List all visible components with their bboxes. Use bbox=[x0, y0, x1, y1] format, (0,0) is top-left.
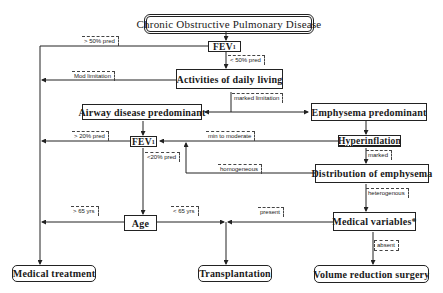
node-age: Age bbox=[124, 215, 157, 231]
node-medical-variables: Medical variables* bbox=[333, 212, 416, 231]
volume-reduction-label: Volume reduction surgery bbox=[314, 269, 430, 280]
fev1-top-label: FEV bbox=[213, 42, 233, 52]
edge-label-present: present bbox=[258, 207, 284, 217]
node-fev1-mid: FEV1 bbox=[130, 136, 157, 147]
node-emphysema-predominant: Emphysema predominant bbox=[311, 103, 427, 121]
edge-label-absent: absent bbox=[374, 240, 399, 251]
medical-variables-label: Medical variables* bbox=[332, 216, 416, 227]
hyperinflation-label: Hyperinflation bbox=[338, 136, 401, 146]
edge-label-gt50: > 50% pred bbox=[82, 36, 119, 46]
title-text: Chronic Obstructive Pulmonary Disease bbox=[137, 18, 322, 30]
node-hyperinflation: Hyperinflation bbox=[338, 135, 401, 147]
fev1-mid-subscript: 1 bbox=[152, 139, 155, 145]
edge-label-gt65: > 65 yrs bbox=[71, 206, 99, 216]
node-fev1-top: FEV1 bbox=[208, 41, 241, 52]
edge-label-heterogeneous: heterogenous bbox=[366, 188, 409, 198]
age-label: Age bbox=[132, 218, 149, 229]
medical-treatment-label: Medical treatment bbox=[13, 268, 95, 279]
terminal-transplantation: Transplantation bbox=[198, 265, 272, 282]
edge-label-lt65: < 65 yrs bbox=[171, 206, 199, 216]
fev1-mid-label: FEV bbox=[132, 137, 152, 147]
edge-label-marked-limitation: marked limitation bbox=[232, 93, 283, 103]
edge-label-lt20: <20% pred bbox=[145, 152, 180, 162]
adl-label: Activities of daily living bbox=[176, 74, 282, 85]
edge-label-homogeneous: homogeneous bbox=[218, 164, 262, 174]
edge-label-lt50: < 50% pred bbox=[228, 55, 265, 65]
terminal-medical-treatment: Medical treatment bbox=[12, 265, 96, 282]
node-activities-daily-living: Activities of daily living bbox=[176, 69, 283, 89]
edge-label-gt20: > 20% pred bbox=[72, 131, 109, 141]
transplantation-label: Transplantation bbox=[199, 268, 271, 279]
emphysema-label: Emphysema predominant bbox=[312, 107, 427, 118]
terminal-volume-reduction-surgery: Volume reduction surgery bbox=[314, 265, 429, 283]
airway-label: Airway disease predominant bbox=[78, 107, 205, 118]
distribution-label: Distribution of emphysema bbox=[311, 168, 432, 179]
node-distribution-emphysema: Distribution of emphysema bbox=[315, 164, 429, 183]
edge-label-min-to-moderate: min to moderate bbox=[206, 131, 255, 141]
node-airway-disease-predominant: Airway disease predominant bbox=[82, 104, 202, 120]
title-node-copd: Chronic Obstructive Pulmonary Disease bbox=[146, 16, 312, 32]
edge-label-marked: marked bbox=[366, 150, 392, 160]
fev1-top-subscript: 1 bbox=[233, 44, 236, 50]
edge-label-mod-limitation: Mod limitation bbox=[72, 71, 115, 81]
